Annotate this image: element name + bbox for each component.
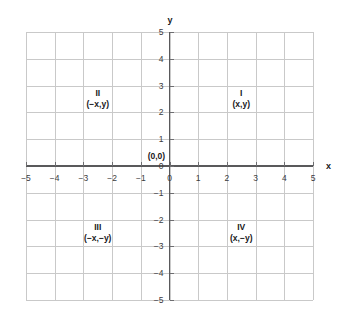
y-tick-label: 2 — [144, 108, 164, 117]
x-tick-label: 2 — [225, 174, 230, 183]
y-tick-label: −5 — [144, 296, 164, 305]
quadrant-2-label: II(−x,y) — [87, 88, 109, 110]
x-tick-label: 5 — [311, 174, 316, 183]
x-tick-label: 3 — [253, 174, 258, 183]
y-axis-tick — [170, 112, 174, 113]
y-axis-tick — [170, 59, 174, 60]
y-axis-tick — [170, 166, 174, 167]
x-axis-tick — [256, 162, 257, 166]
quadrant-3-roman: III — [84, 222, 111, 233]
quadrant-3-coord: (−x,−y) — [84, 233, 111, 244]
y-tick-label: −4 — [144, 269, 164, 278]
y-tick-label: −2 — [144, 215, 164, 224]
y-tick-label: 1 — [144, 135, 164, 144]
y-tick-label: 4 — [144, 55, 164, 64]
y-tick-label: 5 — [144, 28, 164, 37]
y-tick-label: −3 — [144, 242, 164, 251]
quadrant-4-roman: IV — [230, 222, 252, 233]
quadrant-4-coord: (x,−y) — [230, 233, 252, 244]
grid-line-vertical — [313, 32, 314, 300]
y-axis-tick — [170, 273, 174, 274]
plot-area — [26, 32, 313, 300]
x-axis-tick — [227, 162, 228, 166]
x-tick-label: −5 — [21, 174, 31, 183]
y-axis-tick — [170, 246, 174, 247]
y-axis-tick — [170, 139, 174, 140]
y-tick-label: −1 — [144, 189, 164, 198]
x-axis-tick — [83, 162, 84, 166]
x-tick-label: −1 — [136, 174, 146, 183]
x-tick-label: 0 — [167, 174, 172, 183]
y-tick-label: 3 — [144, 81, 164, 90]
y-tick-label: 0 — [144, 162, 164, 171]
y-axis-tick — [170, 300, 174, 301]
coordinate-plane-figure: −5−4−3−2−1012345543210−1−2−3−4−5xy(0,0)I… — [0, 0, 344, 320]
x-tick-label: 1 — [196, 174, 201, 183]
x-axis-tick — [198, 162, 199, 166]
x-tick-label: 4 — [282, 174, 287, 183]
x-axis-label: x — [326, 162, 331, 171]
y-axis-tick — [170, 193, 174, 194]
x-axis-tick — [26, 162, 27, 166]
y-axis-tick — [170, 32, 174, 33]
x-axis-tick — [313, 162, 314, 166]
quadrant-4-label: IV(x,−y) — [230, 222, 252, 244]
quadrant-1-coord: (x,y) — [233, 99, 250, 110]
y-axis-label: y — [168, 16, 173, 25]
quadrant-1-label: I(x,y) — [233, 88, 250, 110]
x-axis-tick — [141, 162, 142, 166]
quadrant-2-coord: (−x,y) — [87, 99, 109, 110]
x-tick-label: −2 — [107, 174, 117, 183]
quadrant-1-roman: I — [233, 88, 250, 99]
y-axis-tick — [170, 86, 174, 87]
quadrant-2-roman: II — [87, 88, 109, 99]
x-tick-label: −4 — [50, 174, 60, 183]
x-tick-label: −3 — [79, 174, 89, 183]
y-axis-tick — [170, 220, 174, 221]
x-axis-tick — [112, 162, 113, 166]
origin-label: (0,0) — [125, 152, 165, 161]
x-axis-tick — [55, 162, 56, 166]
quadrant-3-label: III(−x,−y) — [84, 222, 111, 244]
x-axis-tick — [284, 162, 285, 166]
